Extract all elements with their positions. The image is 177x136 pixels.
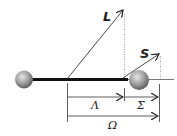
- label-L: L: [103, 9, 111, 24]
- label-lambda: Λ: [90, 99, 99, 112]
- left-sphere: [15, 71, 33, 89]
- L-vector-arrow: [67, 10, 123, 79]
- label-omega: Ω: [107, 119, 117, 132]
- label-S: S: [140, 46, 149, 61]
- label-sigma: Σ: [136, 99, 145, 112]
- vector-coupling-diagram: L S Λ Σ Ω: [0, 0, 177, 136]
- right-sphere: [129, 70, 149, 90]
